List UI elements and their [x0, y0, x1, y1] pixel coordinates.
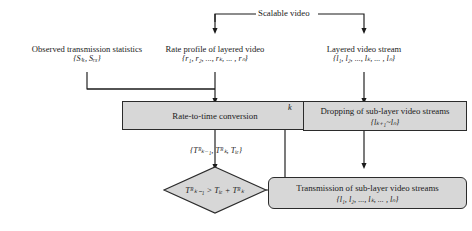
observed-statistics-label: Observed transmission statistics {Sₜₓ, S…	[7, 44, 167, 64]
dropping-sublayer-line1: Dropping of sub-layer video streams	[321, 106, 450, 116]
transmission-sublayer-line1: Transmission of sub-layer video streams	[296, 183, 438, 193]
layered-video-stream-line2: {l₁, l₂, ..., lₖ, ... , lₙ}	[299, 54, 429, 64]
rate-to-time-conversion-label: Rate-to-time conversion	[172, 111, 257, 121]
flowchart-canvas: Scalable video Observed transmission sta…	[0, 0, 472, 231]
layered-video-stream-label: Layered video stream {l₁, l₂, ..., lₖ, .…	[299, 44, 429, 64]
wire-scalable-right-arrow	[318, 14, 364, 31]
decision-node[interactable]: Tᴿₖ₋₁ > Tᵢₑ + Tᴿₖ	[164, 167, 266, 213]
timing-tuple-label: {Tᴿₖ₋₁, Tᴿₖ, Tᵢₑ}	[168, 146, 264, 156]
transmission-sublayer-line2: {l₁, l₂, ..., lₖ, ... , lₙ}	[336, 194, 398, 204]
wire-observed-down	[87, 72, 176, 89]
layered-video-stream-line1: Layered video stream	[299, 44, 429, 54]
observed-statistics-line1: Observed transmission statistics	[7, 44, 167, 54]
rate-profile-line2: {r₁, r₂, ..., rₖ, ... , rₙ}	[148, 54, 282, 64]
observed-statistics-line2: {Sₜₓ, Sᵣₓ}	[7, 54, 167, 64]
rate-profile-line1: Rate profile of layered video	[148, 44, 282, 54]
timing-tuple-text: {Tᴿₖ₋₁, Tᴿₖ, Tᵢₑ}	[168, 146, 264, 156]
transmission-sublayer-box[interactable]: Transmission of sub-layer video streams …	[268, 177, 467, 209]
rate-to-time-conversion-box[interactable]: Rate-to-time conversion	[122, 101, 308, 130]
k-edge-label: k	[288, 103, 292, 112]
dropping-sublayer-line2: {lₖ₊₁~lₙ}	[371, 117, 399, 127]
decision-condition-label: Tᴿₖ₋₁ > Tᵢₑ + Tᴿₖ	[164, 167, 266, 213]
scalable-video-label: Scalable video	[258, 8, 310, 18]
rate-profile-label: Rate profile of layered video {r₁, r₂, .…	[148, 44, 282, 64]
wire-scalable-left	[215, 14, 256, 22]
dropping-sublayer-box[interactable]: Dropping of sub-layer video streams {lₖ₊…	[303, 101, 467, 131]
